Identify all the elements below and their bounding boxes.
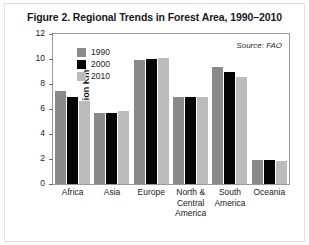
bar — [146, 59, 157, 184]
x-axis-label: Europe — [132, 187, 171, 198]
legend-item: 2010 — [77, 70, 110, 82]
chart-legend: 199020002010 — [77, 46, 110, 82]
bar — [134, 60, 145, 184]
legend-swatch-icon — [77, 60, 86, 69]
bar-group — [171, 34, 210, 184]
y-axis-tick: 4 — [23, 134, 53, 135]
y-axis-tick: 2 — [23, 159, 53, 160]
x-axis-label: Africa — [53, 187, 92, 198]
bar — [158, 58, 169, 184]
bar — [252, 160, 263, 184]
bar — [276, 161, 287, 184]
bar — [236, 77, 247, 184]
y-tick-label: 8 — [40, 78, 45, 89]
x-axis-label-line: Asia — [92, 187, 131, 198]
x-axis-label-line: Europe — [132, 187, 171, 198]
x-axis-label-line: North & — [171, 187, 210, 198]
y-tick-label: 6 — [40, 103, 45, 114]
bar — [264, 160, 275, 184]
bar — [67, 97, 78, 185]
y-tick-label: 0 — [40, 178, 45, 189]
figure-container: Figure 2. Regional Trends in Forest Area… — [0, 0, 309, 245]
x-axis-label-line: Africa — [53, 187, 92, 198]
legend-label: 2010 — [91, 71, 110, 81]
x-axis-label: North &CentralAmerica — [171, 187, 210, 219]
x-axis-label-line: America — [210, 198, 249, 209]
x-axis-labels: AfricaAsiaEuropeNorth &CentralAmericaSou… — [52, 187, 290, 239]
y-tick-label: 10 — [36, 53, 45, 64]
y-axis-tick: 12 — [23, 34, 53, 35]
bar — [55, 91, 66, 184]
bar — [224, 72, 235, 185]
y-tick-label: 4 — [40, 128, 45, 139]
bar — [173, 97, 184, 185]
legend-swatch-icon — [77, 48, 86, 57]
y-axis-tick: 10 — [23, 59, 53, 60]
x-axis-label-line: Central — [171, 198, 210, 209]
y-axis-tick: 6 — [23, 109, 53, 110]
x-axis-label-line: America — [171, 208, 210, 219]
bar — [79, 101, 90, 184]
legend-label: 1990 — [91, 47, 110, 57]
x-axis-label: Oceania — [250, 187, 289, 198]
legend-item: 1990 — [77, 46, 110, 58]
y-tick-label: 2 — [40, 153, 45, 164]
bar-group — [210, 34, 249, 184]
x-axis-label-line: Oceania — [250, 187, 289, 198]
y-tick-label: 12 — [36, 28, 45, 39]
legend-label: 2000 — [91, 59, 110, 69]
bar-group — [250, 34, 289, 184]
x-axis-label: Asia — [92, 187, 131, 198]
source-annotation: Source: FAO — [236, 41, 282, 50]
bar — [94, 113, 105, 184]
x-axis-label-line: South — [210, 187, 249, 198]
y-axis-tick: 8 — [23, 84, 53, 85]
legend-item: 2000 — [77, 58, 110, 70]
x-axis-label: SouthAmerica — [210, 187, 249, 208]
chart-title: Figure 2. Regional Trends in Forest Area… — [0, 11, 309, 23]
y-axis-tick: 0 — [23, 184, 53, 185]
bar-group — [132, 34, 171, 184]
legend-swatch-icon — [77, 72, 86, 81]
bar — [185, 97, 196, 185]
bar — [197, 97, 208, 185]
bar — [118, 111, 129, 184]
bar — [212, 67, 223, 185]
bar — [106, 113, 117, 184]
plot-area: Million Km² 024681012 199020002010 Sourc… — [52, 33, 290, 185]
